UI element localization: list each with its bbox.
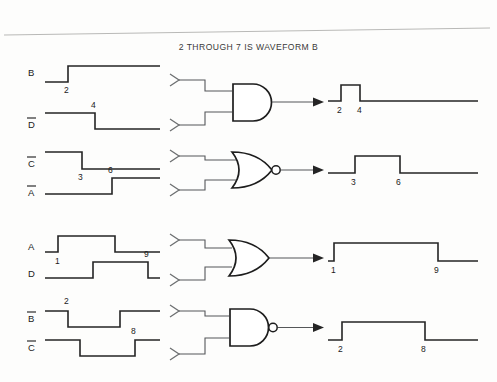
tick-label-dbar-4: 4 xyxy=(91,100,96,110)
tick-label-out1-end: 4 xyxy=(357,105,362,115)
chevron-icon-in-3a xyxy=(170,234,179,246)
or-gate-3[interactable] xyxy=(229,240,269,276)
waveform-input-a xyxy=(45,236,160,252)
signal-label-abar: A xyxy=(28,187,35,198)
tick-label-b-2: 2 xyxy=(64,85,69,95)
tick-label-abar-6: 6 xyxy=(108,165,113,175)
waveform-input-d xyxy=(45,262,160,278)
arrow-icon-out-3 xyxy=(313,254,324,263)
wire-in-3a xyxy=(179,240,232,248)
signal-label-b: B xyxy=(28,67,34,78)
tick-label-d-9: 9 xyxy=(144,249,149,259)
wire-in-4a xyxy=(179,311,229,316)
waveform-output-3 xyxy=(328,243,478,261)
logic-timing-diagram: B 2 D 4 2 4 C 3 A 6 xyxy=(0,0,497,382)
tick-label-out4-end: 8 xyxy=(421,344,426,354)
arrow-icon-out-1 xyxy=(313,98,324,107)
waveform-output-1 xyxy=(328,85,478,101)
chevron-icon-in-3b xyxy=(170,274,179,286)
waveform-input-cbar xyxy=(45,152,160,169)
signal-label-a: A xyxy=(28,241,35,252)
tick-label-bbar-2: 2 xyxy=(64,296,69,306)
signal-label-bbar: B xyxy=(28,313,34,324)
inversion-bubble-2 xyxy=(272,166,280,174)
wire-in-4b xyxy=(179,338,229,354)
waveform-output-2 xyxy=(328,156,478,173)
diagram-page: 2 THROUGH 7 IS WAVEFORM B B 2 D 4 2 4 C xyxy=(0,0,497,382)
tick-label-cbar-3: 3 xyxy=(78,172,83,182)
wire-in-2b xyxy=(179,180,238,190)
nor-gate-2[interactable] xyxy=(232,152,272,188)
tick-label-out3-end: 9 xyxy=(434,265,439,275)
tick-label-a-1: 1 xyxy=(55,256,60,266)
wire-in-2a xyxy=(179,156,238,160)
arrow-icon-out-4 xyxy=(313,323,324,332)
tick-label-out1-start: 2 xyxy=(337,105,342,115)
tick-label-cbar2-8: 8 xyxy=(131,326,136,336)
arrow-icon-out-2 xyxy=(313,166,324,175)
tick-label-out3-start: 1 xyxy=(331,265,336,275)
header-rule xyxy=(4,28,490,35)
wire-in-1b xyxy=(179,112,232,125)
nand-gate-4[interactable] xyxy=(230,309,269,346)
waveform-input-dbar xyxy=(45,113,160,129)
signal-label-d: D xyxy=(28,268,35,279)
tick-label-out2-start: 3 xyxy=(351,177,356,187)
signal-label-cbar: C xyxy=(28,158,35,169)
chevron-icon-in-4a xyxy=(170,305,179,317)
chevron-icon-in-1b xyxy=(170,119,179,131)
signal-label-dbar: D xyxy=(28,119,35,130)
wire-in-3b xyxy=(179,267,232,280)
and-gate-1[interactable] xyxy=(233,84,272,121)
tick-label-out2-end: 6 xyxy=(396,177,401,187)
wire-in-1a xyxy=(179,80,232,91)
waveform-input-b xyxy=(45,66,160,82)
chevron-icon-in-2b xyxy=(170,184,179,196)
tick-label-out4-start: 2 xyxy=(338,344,343,354)
chevron-icon-in-1a xyxy=(170,74,179,86)
chevron-icon-in-2a xyxy=(170,150,179,162)
signal-label-cbar-2: C xyxy=(28,342,35,353)
waveform-input-abar xyxy=(45,178,160,194)
waveform-input-cbar-2 xyxy=(45,340,160,356)
chevron-icon-in-4b xyxy=(170,348,179,360)
waveform-input-bbar xyxy=(45,311,160,327)
waveform-output-4 xyxy=(328,322,478,340)
inversion-bubble-4 xyxy=(269,323,277,331)
